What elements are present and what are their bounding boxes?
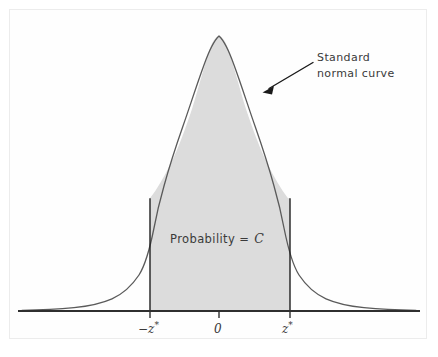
annotation-line-2: normal curve: [317, 66, 395, 82]
probability-label: Probability = C: [170, 231, 264, 246]
axis-label-neg-z: −z*: [138, 320, 159, 336]
axis-label-zero-text: 0: [214, 322, 222, 336]
standard-normal-curve-label: Standard normal curve: [317, 50, 395, 82]
axis-label-pos-z-star: *: [288, 320, 293, 330]
axis-label-zero: 0: [214, 320, 222, 336]
normal-curve-figure: Standard normal curve Probability = C −z…: [0, 0, 438, 357]
axis-label-pos-z: z*: [282, 320, 293, 336]
annotation-line-1: Standard: [317, 50, 395, 66]
shaded-probability-region: [150, 36, 290, 311]
axis-label-neg-z-text: −z: [138, 322, 154, 336]
probability-label-text: Probability =: [170, 232, 253, 246]
probability-symbol: C: [253, 231, 264, 246]
axis-label-neg-z-star: *: [154, 320, 159, 330]
annotation-arrow-icon: [263, 63, 314, 95]
